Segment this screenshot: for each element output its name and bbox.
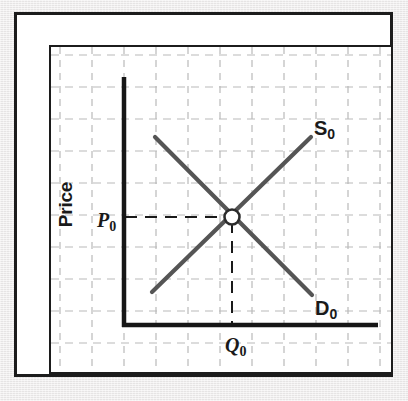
figure-page: S0 D0 P0 Q0 Price Quantity bbox=[0, 0, 408, 401]
equilibrium-guides bbox=[125, 217, 232, 325]
y-axis-title: Price bbox=[56, 182, 75, 227]
figure-outer-frame: S0 D0 P0 Q0 Price Quantity bbox=[14, 12, 393, 377]
axis-lines bbox=[122, 77, 378, 327]
equilibrium-price-label: P0 bbox=[97, 210, 116, 234]
equilibrium-quantity-label: Q0 bbox=[225, 335, 246, 359]
plot-panel: S0 D0 P0 Q0 Price Quantity bbox=[49, 45, 393, 374]
supply-curve-label: S0 bbox=[314, 118, 335, 141]
demand-curve-label: D0 bbox=[315, 298, 337, 321]
equilibrium-point-marker bbox=[225, 210, 240, 225]
